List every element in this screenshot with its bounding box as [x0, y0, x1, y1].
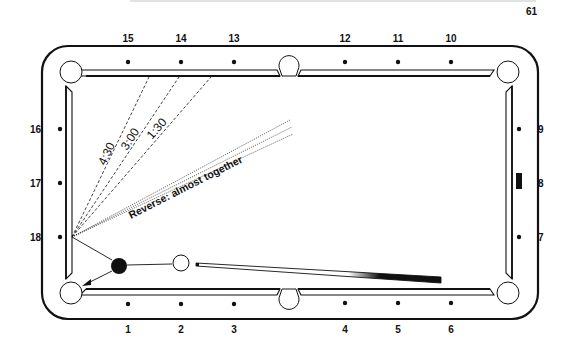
pocket-bottom-side: [279, 289, 299, 309]
right-center-marker: [516, 173, 522, 189]
angle-label-130: 1:30: [144, 115, 170, 142]
svg-text:2: 2: [178, 324, 184, 335]
cue-stick: [196, 263, 441, 283]
svg-text:11: 11: [393, 33, 404, 44]
cushions: [66, 70, 512, 295]
svg-text:13: 13: [228, 33, 240, 44]
svg-text:1: 1: [125, 324, 131, 335]
diamond-labels-bottom: 1 2 3 4 5 6: [125, 324, 454, 335]
angle-line-300: [72, 77, 179, 237]
svg-text:9: 9: [538, 124, 544, 135]
svg-text:15: 15: [122, 33, 134, 44]
svg-text:10: 10: [445, 33, 457, 44]
svg-text:7: 7: [538, 232, 544, 243]
svg-text:5: 5: [395, 324, 401, 335]
arrow-head-icon: [82, 279, 91, 286]
cue-tip: [196, 263, 199, 266]
cue-ball: [173, 255, 189, 271]
angle-label-430: 4:30: [95, 140, 118, 167]
reverse-lines: [72, 120, 293, 237]
svg-text:16: 16: [30, 124, 42, 135]
reverse-label: Reverse: almost together: [126, 153, 244, 221]
svg-text:14: 14: [175, 33, 187, 44]
svg-text:18: 18: [30, 232, 42, 243]
object-ball: [111, 258, 127, 274]
pocket-bottom-left: [60, 282, 82, 304]
page-number: 61: [526, 6, 538, 17]
diamond-labels-left: 16 17 18: [30, 124, 42, 243]
diamond-labels-top: 15 14 13 12 11 10: [122, 33, 457, 44]
table-outer-frame: [42, 46, 538, 319]
pocket-bottom-right: [497, 282, 519, 304]
pocket-top-right: [497, 61, 519, 83]
svg-text:4: 4: [342, 324, 348, 335]
svg-text:3: 3: [231, 324, 237, 335]
pool-table-diagram: 61: [0, 0, 572, 358]
angle-label-300: 3:00: [118, 125, 143, 152]
svg-text:6: 6: [448, 324, 454, 335]
svg-text:12: 12: [339, 33, 351, 44]
pocket-top-side: [279, 56, 299, 76]
svg-text:8: 8: [538, 178, 544, 189]
pocket-top-left: [60, 61, 82, 83]
svg-text:17: 17: [30, 178, 42, 189]
